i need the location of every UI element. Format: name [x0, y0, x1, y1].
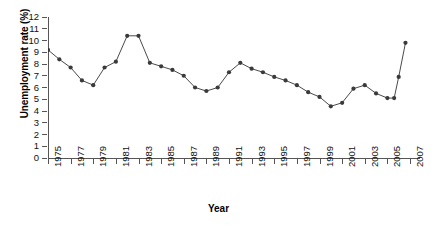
data-point	[261, 70, 265, 74]
x-tick-mark	[320, 159, 321, 164]
x-tick-mark	[139, 159, 140, 164]
data-point	[392, 96, 396, 100]
data-point	[125, 34, 129, 38]
y-tick-mark	[42, 75, 47, 76]
plot-area	[48, 17, 410, 158]
series-line	[48, 36, 405, 107]
x-tick-mark	[365, 159, 366, 164]
x-tick-mark	[342, 159, 343, 164]
data-point	[159, 64, 163, 68]
data-point	[204, 89, 208, 93]
data-point	[193, 85, 197, 89]
y-tick-mark	[42, 87, 47, 88]
y-tick-mark	[42, 158, 47, 159]
data-point	[182, 74, 186, 78]
data-point	[238, 61, 242, 65]
x-tick-mark	[229, 159, 230, 164]
data-point	[136, 34, 140, 38]
x-tick-mark	[274, 159, 275, 164]
chart-figure: Unemployment rate (%) 1211109876543210 1…	[0, 0, 437, 227]
data-point	[80, 78, 84, 82]
data-point	[227, 70, 231, 74]
x-tick-mark	[48, 159, 49, 164]
x-tick-mark	[184, 159, 185, 164]
y-tick-mark	[42, 99, 47, 100]
y-tick-mark	[42, 111, 47, 112]
x-tick-mark	[116, 159, 117, 164]
data-point	[216, 85, 220, 89]
x-tick-mark	[252, 159, 253, 164]
data-point	[272, 75, 276, 79]
data-point	[295, 83, 299, 87]
data-point	[250, 67, 254, 71]
data-point	[340, 101, 344, 105]
y-tick-mark	[42, 134, 47, 135]
data-point	[363, 83, 367, 87]
x-tick-mark	[387, 159, 388, 164]
y-tick-mark	[42, 40, 47, 41]
y-tick-mark	[42, 146, 47, 147]
x-axis-title: Year	[0, 203, 437, 214]
data-point	[102, 65, 106, 69]
x-tick-mark	[71, 159, 72, 164]
x-tick-mark	[297, 159, 298, 164]
data-point	[148, 61, 152, 65]
data-point	[283, 78, 287, 82]
y-tick-mark	[42, 122, 47, 123]
data-point	[374, 91, 378, 95]
data-point	[69, 65, 73, 69]
y-tick-mark	[42, 64, 47, 65]
data-point	[306, 90, 310, 94]
x-tick-mark	[410, 159, 411, 164]
data-point	[397, 75, 401, 79]
data-point	[114, 60, 118, 64]
x-tick-label: 2007	[414, 146, 425, 167]
x-tick-mark	[206, 159, 207, 164]
data-point	[170, 68, 174, 72]
data-point	[57, 57, 61, 61]
data-point	[351, 87, 355, 91]
x-tick-mark	[161, 159, 162, 164]
y-tick-label: 0	[22, 151, 39, 164]
y-tick-mark	[42, 28, 47, 29]
data-point	[317, 95, 321, 99]
y-tick-mark	[42, 52, 47, 53]
y-tick-mark	[42, 17, 47, 18]
data-point	[385, 96, 389, 100]
data-point	[403, 41, 407, 45]
x-tick-mark	[93, 159, 94, 164]
data-point	[329, 104, 333, 108]
data-point	[91, 83, 95, 87]
